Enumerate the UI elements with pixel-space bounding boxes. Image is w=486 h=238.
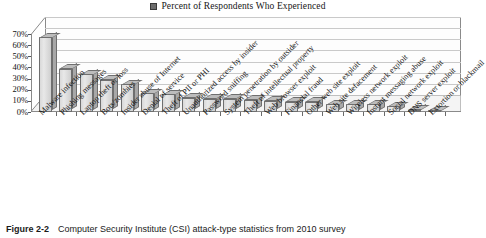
y-axis-tick-label: 40% bbox=[12, 63, 28, 72]
y-axis-tick-label: 30% bbox=[12, 74, 28, 83]
figure-caption-text: Computer Security Institute (CSI) attack… bbox=[58, 224, 346, 234]
y-axis: 0%10%20%30%40%50%60%70% bbox=[0, 17, 31, 112]
bar-top-face bbox=[39, 33, 60, 38]
chart-legend: Percent of Respondents Who Experienced bbox=[0, 1, 476, 11]
figure-caption: Figure 2-2Computer Security Institute (C… bbox=[6, 224, 474, 235]
x-axis-labels: Malware infectionPhishing messagesLaptop… bbox=[0, 108, 476, 228]
y-axis-tick-label: 20% bbox=[12, 85, 28, 94]
legend-swatch-icon bbox=[150, 3, 157, 10]
figure-number: Figure 2-2 bbox=[6, 224, 49, 234]
y-axis-tick-label: 60% bbox=[12, 41, 28, 50]
y-axis-tick-label: 70% bbox=[12, 30, 28, 39]
y-axis-tick-label: 10% bbox=[12, 96, 28, 105]
y-axis-tick-label: 50% bbox=[12, 52, 28, 61]
legend-label: Percent of Respondents Who Experienced bbox=[161, 1, 325, 11]
